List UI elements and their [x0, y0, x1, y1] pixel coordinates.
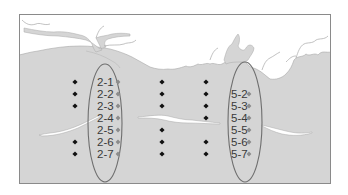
station-label: 5-7 — [231, 148, 248, 160]
map-body — [19, 14, 331, 184]
station-label: 2-7 — [97, 148, 114, 160]
station-label: 5-3 — [231, 100, 248, 112]
station-label: 2-2 — [97, 88, 114, 100]
station-label: 2-5 — [97, 124, 114, 136]
station-label: 5-2 — [231, 88, 248, 100]
station-label: 2-6 — [97, 136, 114, 148]
station-label: 2-4 — [97, 112, 114, 124]
station-map: 2-12-22-32-42-52-62-75-25-35-45-55-65-7 — [0, 0, 348, 195]
station-label: 2-3 — [97, 100, 114, 112]
station-label: 2-1 — [97, 76, 114, 88]
station-label: 5-5 — [231, 124, 248, 136]
station-label: 5-4 — [231, 112, 248, 124]
station-label: 5-6 — [231, 136, 248, 148]
